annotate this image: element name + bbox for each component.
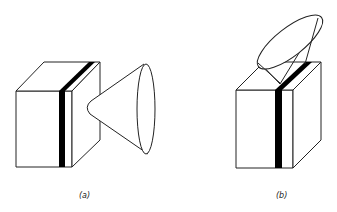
figure-a — [16, 62, 155, 167]
caption-b: (b) — [276, 191, 287, 200]
box-a — [16, 62, 100, 167]
diagram-canvas — [0, 0, 337, 212]
caption-a: (a) — [79, 191, 90, 200]
figure-b — [236, 6, 330, 168]
